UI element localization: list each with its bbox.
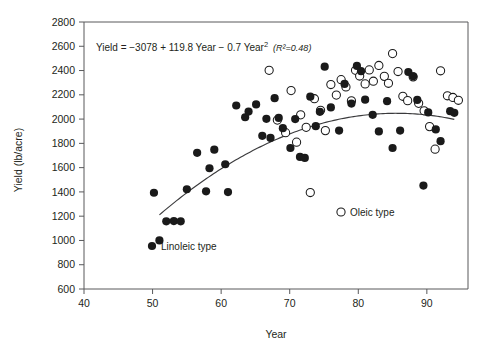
data-point-oleic bbox=[365, 66, 373, 74]
data-point-linoleic bbox=[258, 132, 266, 140]
legend-marker-oleic bbox=[337, 208, 345, 216]
data-point-oleic bbox=[292, 138, 300, 146]
data-point-linoleic bbox=[432, 125, 440, 133]
data-point-linoleic bbox=[424, 108, 432, 116]
y-tick-label: 1400 bbox=[52, 186, 76, 198]
data-point-linoleic bbox=[262, 115, 270, 123]
x-tick-label: 40 bbox=[78, 297, 90, 309]
data-point-linoleic bbox=[450, 109, 458, 117]
data-point-linoleic bbox=[286, 144, 294, 152]
data-point-linoleic bbox=[221, 160, 229, 168]
data-point-linoleic bbox=[224, 188, 232, 196]
data-point-oleic bbox=[394, 67, 402, 75]
data-point-oleic bbox=[361, 80, 369, 88]
equation-annotation: Yield = −3078 + 119.8 Year − 0.7 Year2(R… bbox=[96, 40, 311, 53]
data-point-linoleic bbox=[275, 114, 283, 122]
data-point-linoleic bbox=[193, 149, 201, 157]
data-point-linoleic bbox=[279, 124, 287, 132]
x-tick-label: 80 bbox=[352, 297, 364, 309]
x-axis-ticks: 405060708090 bbox=[78, 289, 433, 309]
data-point-linoleic bbox=[361, 96, 369, 104]
y-tick-label: 2200 bbox=[52, 88, 76, 100]
data-point-linoleic bbox=[357, 67, 365, 75]
x-tick-label: 70 bbox=[284, 297, 296, 309]
data-point-linoleic bbox=[375, 127, 383, 135]
data-point-oleic bbox=[321, 127, 329, 135]
data-point-linoleic bbox=[210, 146, 218, 154]
data-point-oleic bbox=[431, 145, 439, 153]
data-point-linoleic bbox=[369, 111, 377, 119]
data-point-oleic bbox=[287, 86, 295, 94]
data-point-linoleic bbox=[202, 187, 210, 195]
data-point-oleic bbox=[332, 91, 340, 99]
data-point-oleic bbox=[436, 67, 444, 75]
data-point-oleic bbox=[384, 79, 392, 87]
data-point-linoleic bbox=[396, 127, 404, 135]
data-point-linoleic bbox=[271, 94, 279, 102]
legend-label-linoleic: Linoleic type bbox=[161, 241, 217, 252]
x-axis-title: Year bbox=[265, 328, 287, 340]
data-point-linoleic bbox=[150, 189, 158, 197]
linoleic-data-points bbox=[150, 62, 459, 245]
y-tick-label: 600 bbox=[57, 283, 75, 295]
legend-marker-linoleic bbox=[148, 242, 156, 250]
scatter-plot: 6008001000120014001600180020002200240026… bbox=[0, 0, 497, 349]
data-point-oleic bbox=[327, 80, 335, 88]
data-point-linoleic bbox=[312, 122, 320, 130]
y-tick-label: 1000 bbox=[52, 234, 76, 246]
y-axis-title: Yield (lb/acre) bbox=[12, 128, 24, 192]
data-point-linoleic bbox=[388, 144, 396, 152]
legend-label-oleic: Oleic type bbox=[350, 207, 395, 218]
data-point-linoleic bbox=[383, 97, 391, 105]
data-point-oleic bbox=[388, 49, 396, 57]
data-point-linoleic bbox=[177, 217, 185, 225]
data-point-linoleic bbox=[232, 101, 240, 109]
data-point-linoleic bbox=[183, 185, 191, 193]
y-axis-ticks: 6008001000120014001600180020002200240026… bbox=[52, 16, 84, 295]
x-tick-label: 60 bbox=[215, 297, 227, 309]
data-point-oleic bbox=[375, 61, 383, 69]
y-tick-label: 1600 bbox=[52, 161, 76, 173]
data-point-linoleic bbox=[162, 217, 170, 225]
plot-frame bbox=[84, 22, 468, 289]
y-tick-label: 1200 bbox=[52, 210, 76, 222]
data-point-linoleic bbox=[321, 63, 329, 71]
y-tick-label: 1800 bbox=[52, 137, 76, 149]
data-point-linoleic bbox=[436, 137, 444, 145]
data-point-linoleic bbox=[327, 103, 335, 111]
data-point-linoleic bbox=[335, 127, 343, 135]
equation-text: Yield = −3078 + 119.8 Year − 0.7 Year2(R… bbox=[96, 40, 311, 53]
data-point-oleic bbox=[404, 97, 412, 105]
data-point-oleic bbox=[306, 188, 314, 196]
data-point-linoleic bbox=[340, 80, 348, 88]
data-point-linoleic bbox=[306, 93, 314, 101]
chart-figure: 6008001000120014001600180020002200240026… bbox=[0, 0, 497, 349]
x-tick-label: 50 bbox=[147, 297, 159, 309]
data-point-linoleic bbox=[419, 182, 427, 190]
data-point-linoleic bbox=[413, 96, 421, 104]
x-tick-label: 90 bbox=[421, 297, 433, 309]
data-point-linoleic bbox=[205, 164, 213, 172]
data-point-linoleic bbox=[291, 115, 299, 123]
data-point-linoleic bbox=[409, 72, 417, 80]
data-point-linoleic bbox=[244, 107, 252, 115]
data-point-linoleic bbox=[252, 100, 260, 108]
y-tick-label: 2400 bbox=[52, 64, 76, 76]
data-point-oleic bbox=[302, 123, 310, 131]
data-point-oleic bbox=[369, 77, 377, 85]
data-point-oleic bbox=[265, 66, 273, 74]
data-point-oleic bbox=[454, 96, 462, 104]
data-point-linoleic bbox=[347, 99, 355, 107]
data-point-linoleic bbox=[316, 108, 324, 116]
y-tick-label: 2800 bbox=[52, 16, 76, 28]
y-tick-label: 2600 bbox=[52, 40, 76, 52]
data-point-linoleic bbox=[301, 154, 309, 162]
legend-oleic: Oleic type bbox=[337, 207, 395, 218]
y-tick-label: 800 bbox=[57, 258, 75, 270]
y-tick-label: 2000 bbox=[52, 113, 76, 125]
data-point-linoleic bbox=[266, 134, 274, 142]
